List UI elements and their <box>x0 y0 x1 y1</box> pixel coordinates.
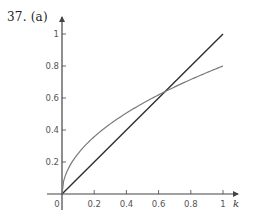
curve-series <box>62 66 223 194</box>
y-tick-label: 1 <box>54 29 59 39</box>
x-tick-label: 0.2 <box>87 199 101 209</box>
y-tick-label: 0.4 <box>45 125 59 135</box>
y-tick-label: 0.2 <box>45 157 59 167</box>
x-tick-label: 0 <box>54 199 59 209</box>
x-tick-label: 0.8 <box>184 199 198 209</box>
y-tick-label: 0.6 <box>45 93 59 103</box>
x-axis-label: k <box>233 198 239 209</box>
chart-area: 00.20.40.60.810.20.40.60.81k <box>0 0 255 221</box>
y-tick-label: 0.8 <box>45 61 59 71</box>
x-tick-label: 0.6 <box>152 199 166 209</box>
x-tick-label: 1 <box>220 199 225 209</box>
series <box>62 34 223 194</box>
x-tick-label: 0.4 <box>120 199 134 209</box>
line-series <box>62 34 223 194</box>
